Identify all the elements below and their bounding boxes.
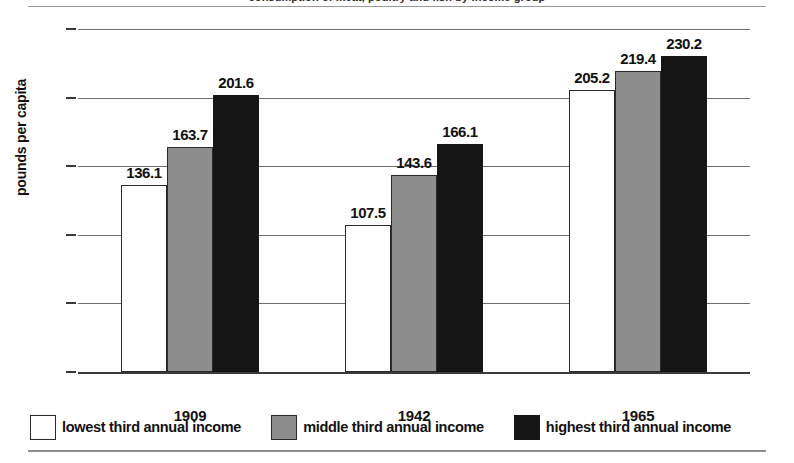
legend-item-high[interactable]: highest third annual income xyxy=(514,415,731,440)
gridline-0 xyxy=(78,372,750,374)
bar-value-label: 201.6 xyxy=(218,74,254,91)
bar-value-label: 230.2 xyxy=(666,35,702,52)
legend-label: highest third annual income xyxy=(546,419,731,435)
legend-label: lowest third annual income xyxy=(62,419,241,435)
bar-1909-lowest xyxy=(121,185,167,372)
y-tick-mark-50 xyxy=(66,302,76,304)
legend-item-low[interactable]: lowest third annual income xyxy=(30,415,241,440)
bar-value-label: 205.2 xyxy=(574,69,610,86)
clipped-chart-title: consumption of meat, poultry and fish by… xyxy=(0,0,794,3)
bar-chart-figure: consumption of meat, poultry and fish by… xyxy=(0,0,794,463)
bar-1942-lowest xyxy=(345,225,391,372)
bar-value-label: 166.1 xyxy=(442,123,478,140)
y-axis-title: pounds per capita xyxy=(13,79,29,196)
bar-value-label: 143.6 xyxy=(396,154,432,171)
bar-value-label: 219.4 xyxy=(620,50,656,67)
bar-value-label: 107.5 xyxy=(350,204,386,221)
legend-label: middle third annual income xyxy=(303,419,484,435)
bar-1965-lowest xyxy=(569,90,615,372)
bar-1942-highest xyxy=(437,144,483,372)
y-tick-mark-100 xyxy=(66,234,76,236)
legend-item-mid[interactable]: middle third annual income xyxy=(271,415,484,440)
bar-1965-middle xyxy=(615,71,661,372)
y-tick-mark-200 xyxy=(66,97,76,99)
bar-1965-highest xyxy=(661,56,707,372)
gridline-250 xyxy=(78,29,750,30)
legend-swatch-icon-low xyxy=(30,415,56,440)
bar-1909-middle xyxy=(167,147,213,372)
bar-1909-highest xyxy=(213,95,259,372)
bottom-divider-rule xyxy=(28,450,766,452)
plot-area: 050100150200250136.1163.7201.61909107.51… xyxy=(78,29,750,372)
bar-value-label: 136.1 xyxy=(126,164,162,181)
chart-legend: lowest third annual incomemiddle third a… xyxy=(30,412,766,442)
y-tick-mark-250 xyxy=(66,28,76,30)
y-tick-mark-0 xyxy=(66,371,76,373)
top-divider-rule xyxy=(28,6,766,7)
legend-swatch-icon-high xyxy=(514,415,540,440)
y-tick-mark-150 xyxy=(66,165,76,167)
bar-value-label: 163.7 xyxy=(172,126,208,143)
bar-1942-middle xyxy=(391,175,437,372)
legend-swatch-icon-mid xyxy=(271,415,297,440)
